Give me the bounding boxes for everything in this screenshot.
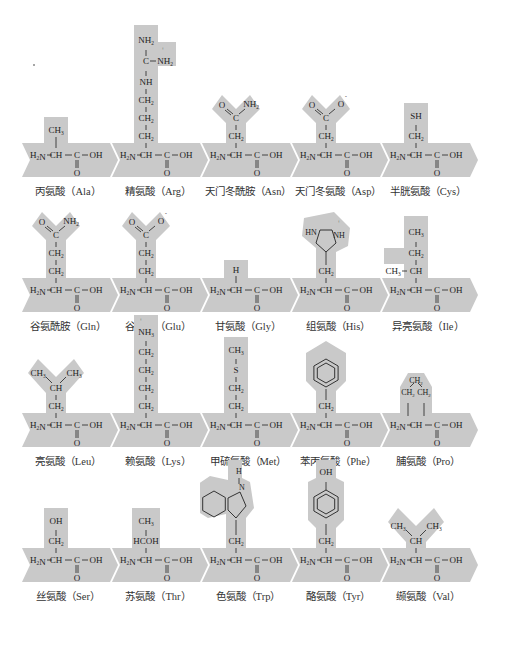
- svg-text:C: C: [323, 113, 329, 123]
- svg-text:HN: HN: [305, 228, 317, 237]
- svg-text:C: C: [344, 150, 350, 160]
- svg-text:OH: OH: [450, 420, 463, 430]
- svg-text:C: C: [434, 285, 440, 295]
- svg-text:CH: CH: [410, 285, 423, 295]
- svg-text:HCOH: HCOH: [133, 536, 159, 546]
- svg-text:NH: NH: [140, 77, 153, 87]
- svg-text:SH: SH: [410, 111, 422, 121]
- svg-text:OH: OH: [270, 420, 283, 430]
- svg-text:C: C: [254, 150, 260, 160]
- svg-text:C: C: [74, 150, 80, 160]
- svg-text:OH: OH: [180, 420, 193, 430]
- svg-text:CH: CH: [230, 150, 243, 160]
- svg-text:CH: CH: [140, 150, 153, 160]
- svg-text:C: C: [344, 555, 350, 565]
- svg-text:N: N: [239, 483, 245, 492]
- svg-text:CH3: CH3: [385, 266, 401, 277]
- svg-text:CH: CH: [50, 383, 63, 393]
- svg-text:H: H: [236, 467, 242, 476]
- svg-text:OH: OH: [90, 420, 103, 430]
- svg-text:O: O: [344, 573, 351, 583]
- svg-text:CH: CH: [410, 536, 423, 546]
- label-val: 缬氨酸（Val）: [378, 588, 478, 603]
- svg-text:C: C: [74, 285, 80, 295]
- svg-text:+: +: [140, 317, 143, 322]
- svg-text:C: C: [74, 555, 80, 565]
- svg-text:CH: CH: [320, 555, 333, 565]
- structure-tyr: CH2OHH2NCHCOHO: [290, 430, 390, 600]
- structure-ser: CH2OHH2NCHCOHO: [20, 430, 120, 600]
- svg-text:-: -: [165, 210, 167, 216]
- svg-text:CH: CH: [50, 420, 63, 430]
- svg-text:OH: OH: [450, 150, 463, 160]
- svg-text:CH: CH: [140, 420, 153, 430]
- svg-text:C: C: [164, 285, 170, 295]
- svg-text:C: C: [344, 285, 350, 295]
- svg-text:C: C: [164, 150, 170, 160]
- svg-text:S: S: [233, 365, 238, 375]
- svg-text:CH: CH: [320, 420, 333, 430]
- svg-text:OH: OH: [360, 420, 373, 430]
- structure-trp: CH2NHH2NCHCOHO: [200, 430, 300, 600]
- svg-text:H: H: [233, 265, 240, 275]
- svg-text:OH: OH: [360, 150, 373, 160]
- svg-text:OH: OH: [50, 516, 63, 526]
- label-trp: 色氨酸（Trp）: [198, 588, 298, 603]
- svg-text:O: O: [309, 100, 316, 110]
- svg-text:NH2: NH2: [63, 216, 79, 227]
- label-thr: 苏氨酸（Thr）: [108, 588, 208, 603]
- svg-text:CH: CH: [410, 266, 423, 276]
- svg-text:OH: OH: [450, 285, 463, 295]
- svg-text:CH: CH: [50, 555, 63, 565]
- svg-text:+: +: [338, 219, 341, 224]
- svg-text:C: C: [53, 230, 59, 240]
- label-tyr: 酪氨酸（Tyr）: [288, 588, 388, 603]
- svg-text:O: O: [164, 573, 171, 583]
- svg-text:C: C: [143, 56, 149, 66]
- svg-text:O: O: [158, 216, 165, 226]
- structure-thr: HCOHCH3H2NCHCOHO: [110, 430, 210, 600]
- svg-text:C: C: [164, 555, 170, 565]
- svg-text:OH: OH: [90, 555, 103, 565]
- svg-text:+: +: [162, 46, 165, 51]
- svg-text:C: C: [143, 230, 149, 240]
- svg-text:OH: OH: [450, 555, 463, 565]
- svg-text:OH: OH: [320, 467, 333, 477]
- svg-text:O: O: [338, 99, 345, 109]
- svg-text:CH: CH: [410, 420, 423, 430]
- svg-text:C: C: [254, 285, 260, 295]
- svg-text:O: O: [434, 573, 441, 583]
- svg-text:NH2: NH2: [243, 99, 259, 110]
- svg-text:CH: CH: [410, 555, 423, 565]
- label-ser: 丝氨酸（Ser）: [18, 588, 118, 603]
- svg-text:C: C: [254, 420, 260, 430]
- svg-text:C: C: [74, 420, 80, 430]
- svg-text:CH: CH: [230, 285, 243, 295]
- svg-text:CH: CH: [320, 150, 333, 160]
- svg-text:OH: OH: [90, 285, 103, 295]
- svg-text:CH: CH: [410, 150, 423, 160]
- svg-text:OH: OH: [180, 555, 193, 565]
- svg-text:OH: OH: [180, 150, 193, 160]
- svg-text:O: O: [39, 217, 46, 227]
- svg-text:OH: OH: [360, 285, 373, 295]
- svg-text:O: O: [219, 100, 226, 110]
- svg-text:CH: CH: [230, 420, 243, 430]
- svg-text:CH: CH: [50, 150, 63, 160]
- svg-text:OH: OH: [180, 285, 193, 295]
- svg-text:OH: OH: [90, 150, 103, 160]
- svg-text:C: C: [233, 113, 239, 123]
- svg-text:C: C: [434, 150, 440, 160]
- svg-text:O: O: [129, 217, 136, 227]
- structure-val: CHCH3CH3H2NCHCOHO: [380, 430, 480, 600]
- svg-text:OH: OH: [360, 555, 373, 565]
- svg-text:O: O: [74, 573, 81, 583]
- svg-text:-: -: [345, 93, 347, 99]
- svg-text:C: C: [344, 420, 350, 430]
- svg-text:OH: OH: [270, 555, 283, 565]
- svg-text:NH: NH: [333, 231, 345, 240]
- svg-text:O: O: [254, 573, 261, 583]
- svg-text:OH: OH: [270, 150, 283, 160]
- svg-text:CH: CH: [140, 285, 153, 295]
- svg-text:CH: CH: [230, 555, 243, 565]
